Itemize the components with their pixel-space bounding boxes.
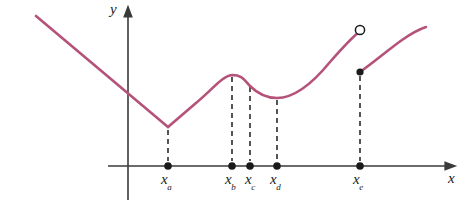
tick-label-xa: xa xyxy=(161,172,172,190)
axis-dot-xc xyxy=(246,162,254,170)
function-graph-figure: y x xa xb xc xd xe xyxy=(0,0,463,210)
y-axis-label: y xyxy=(110,2,117,17)
axis-dot-xa xyxy=(164,162,172,170)
tick-label-xe-sub: e xyxy=(359,182,363,192)
tick-label-xb-sub: b xyxy=(231,182,236,192)
tick-label-xb: xb xyxy=(225,172,236,190)
curve-left-branch xyxy=(36,16,168,127)
tick-label-xd: xd xyxy=(270,172,281,190)
dashed-connectors xyxy=(168,76,360,161)
open-circle-at-xe xyxy=(355,25,364,34)
filled-dot-at-xe xyxy=(356,68,363,75)
curve-middle-branch xyxy=(168,31,360,127)
tick-label-xe: xe xyxy=(353,172,364,190)
axis-dot-xd xyxy=(273,162,281,170)
axis-dot-xe xyxy=(356,162,364,170)
tick-label-xd-sub: d xyxy=(276,182,281,192)
tick-label-xc-sub: c xyxy=(251,182,255,192)
function-curve xyxy=(36,16,426,127)
axis-dot-xb xyxy=(228,162,236,170)
curve-right-branch xyxy=(360,27,426,72)
tick-label-xc: xc xyxy=(245,172,256,190)
tick-label-xa-sub: a xyxy=(167,182,172,192)
x-axis-label: x xyxy=(448,171,455,186)
